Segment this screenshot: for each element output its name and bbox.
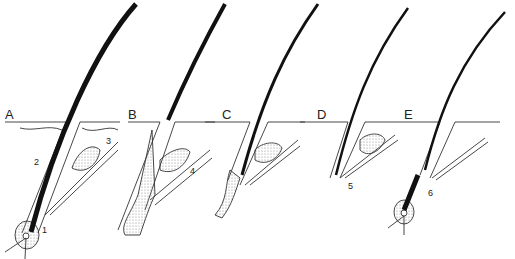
callout-4: 4 <box>190 167 195 176</box>
stage-label-d: D <box>317 108 326 121</box>
hair-shaft-e <box>425 12 505 170</box>
callout-6: 6 <box>428 189 433 198</box>
callout-3: 3 <box>106 137 111 146</box>
stage-label-a: A <box>5 108 14 121</box>
hair-cycle-diagram: A B C D E 1 2 3 4 5 6 <box>0 0 515 259</box>
stage-e-drawing <box>388 122 500 235</box>
stage-label-c: C <box>222 108 231 121</box>
diagram-drawing <box>0 0 515 259</box>
stage-c-drawing <box>205 122 305 218</box>
callout-5: 5 <box>348 182 353 191</box>
hair-shaft-a <box>31 4 136 232</box>
hair-shaft-b <box>168 4 225 120</box>
stage-b-drawing <box>118 122 215 235</box>
callout-1: 1 <box>42 226 47 235</box>
stage-label-b: B <box>128 108 137 121</box>
callout-2: 2 <box>34 158 39 167</box>
stage-a-drawing <box>5 122 120 259</box>
stage-label-e: E <box>404 108 413 121</box>
